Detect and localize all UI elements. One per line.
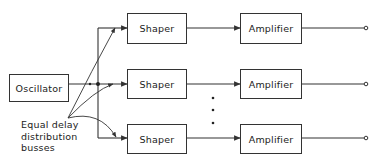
shaper-block-3: Shaper: [127, 124, 187, 154]
amplifier-label: Amplifier: [249, 23, 294, 34]
bus-annotation: Equal delay distribution busses: [21, 119, 79, 154]
shaper-block-1: Shaper: [127, 13, 187, 44]
shaper-label: Shaper: [140, 79, 175, 90]
amplifier-block-3: Amplifier: [240, 124, 302, 154]
amplifier-block-1: Amplifier: [240, 13, 302, 44]
shaper-label: Shaper: [140, 23, 175, 34]
amplifier-label: Amplifier: [249, 79, 294, 90]
shaper-block-2: Shaper: [127, 69, 187, 99]
amplifier-label: Amplifier: [249, 134, 294, 145]
oscillator-label: Oscillator: [16, 83, 63, 94]
shaper-label: Shaper: [140, 134, 175, 145]
annotation-line-2: distribution: [21, 131, 79, 143]
annotation-line-1: Equal delay: [21, 119, 79, 131]
amplifier-block-2: Amplifier: [240, 69, 302, 99]
annotation-line-3: busses: [21, 142, 79, 154]
oscillator-block: Oscillator: [9, 74, 69, 102]
